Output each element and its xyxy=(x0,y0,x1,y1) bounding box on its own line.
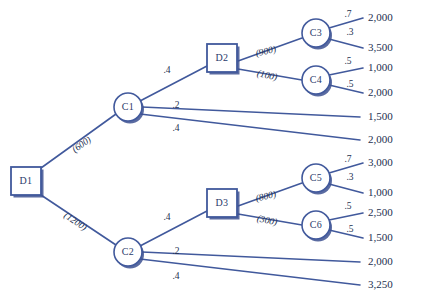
edge-probability-label-c1-e1: .2 xyxy=(172,100,179,110)
payoff-value-p2: 3,500 xyxy=(368,41,393,53)
node-label: C1 xyxy=(122,101,134,112)
payoff-value-p7: 2,500 xyxy=(368,206,393,218)
payoff-value-e4: 3,250 xyxy=(368,278,393,290)
payoff-value-p8: 1,500 xyxy=(368,231,393,243)
edge-probability-label-c6-p7: .5 xyxy=(344,201,351,211)
node-label: D1 xyxy=(19,175,32,186)
node-label: C3 xyxy=(310,27,322,38)
payoff-labels-layer: 2,0003,5001,0002,0001,5002,0003,0001,000… xyxy=(368,11,393,290)
chance-node-c1[interactable]: C1 xyxy=(114,93,144,124)
chance-node-c4[interactable]: C4 xyxy=(302,66,332,97)
node-label: C5 xyxy=(310,172,322,183)
decision-node-d1[interactable]: D1 xyxy=(11,167,44,198)
tree-edge-c2-d3 xyxy=(140,211,207,246)
edge-cost-label-d3-c6: (300) xyxy=(256,213,278,228)
edge-probability-label-c3-p2: .3 xyxy=(346,27,353,37)
node-label: C4 xyxy=(310,74,322,85)
node-label: C6 xyxy=(310,219,322,230)
edge-probability-label-c5-p6: .3 xyxy=(346,172,353,182)
edge-cost-label-d1-c2: (1200) xyxy=(62,210,89,233)
chance-node-c5[interactable]: C5 xyxy=(302,164,332,195)
edge-cost-label-d3-c5: (800) xyxy=(255,189,278,204)
payoff-value-p5: 3,000 xyxy=(368,156,393,168)
edge-probability-label-c4-p4: .5 xyxy=(346,79,353,89)
nodes-layer: D1D2D3C1C2C3C4C5C6 xyxy=(11,19,332,269)
tree-edge-c5-p6 xyxy=(329,184,363,193)
payoff-value-p1: 2,000 xyxy=(368,11,393,23)
edge-probability-label-c4-p3: .5 xyxy=(344,56,351,66)
payoff-value-p4: 2,000 xyxy=(368,86,393,98)
node-label: D2 xyxy=(215,52,228,63)
payoff-value-p6: 1,000 xyxy=(368,186,393,198)
chance-node-c3[interactable]: C3 xyxy=(302,19,332,50)
node-label: D3 xyxy=(215,197,228,208)
edge-probability-label-c1-d2: .4 xyxy=(163,65,170,75)
edge-cost-label-d1-c1: (600) xyxy=(70,134,93,155)
edges-layer xyxy=(41,18,363,285)
payoff-value-e1: 1,500 xyxy=(368,110,393,122)
payoff-value-e3: 2,000 xyxy=(368,255,393,267)
tree-edge-c4-p3 xyxy=(329,68,363,75)
edge-probability-label-c5-p5: .7 xyxy=(344,154,351,164)
tree-edge-c3-p2 xyxy=(329,39,363,48)
tree-edge-c1-d2 xyxy=(140,66,207,101)
decision-node-d2[interactable]: D2 xyxy=(207,44,240,75)
edge-probability-label-c1-e2: .4 xyxy=(172,123,179,133)
edge-probability-label-c2-e3: .2 xyxy=(172,246,179,256)
edge-probability-label-c6-p8: .5 xyxy=(346,224,353,234)
edge-probability-label-c2-d3: .4 xyxy=(163,212,170,222)
payoff-value-e2: 2,000 xyxy=(368,133,393,145)
decision-node-d3[interactable]: D3 xyxy=(207,189,240,220)
edge-probability-label-c2-e4: .4 xyxy=(172,271,179,281)
edge-cost-label-d2-c4: (100) xyxy=(256,68,278,83)
chance-node-c2[interactable]: C2 xyxy=(114,238,144,269)
payoff-value-p3: 1,000 xyxy=(368,61,393,73)
tree-edge-c6-p7 xyxy=(329,213,363,220)
edge-cost-label-d2-c3: (900) xyxy=(255,44,278,59)
decision-tree-diagram: D1D2D3C1C2C3C4C5C6 (600)(1200).4.2.4(900… xyxy=(0,0,422,307)
node-label: C2 xyxy=(122,246,134,257)
chance-node-c6[interactable]: C6 xyxy=(302,211,332,242)
edge-probability-label-c3-p1: .7 xyxy=(344,9,351,19)
